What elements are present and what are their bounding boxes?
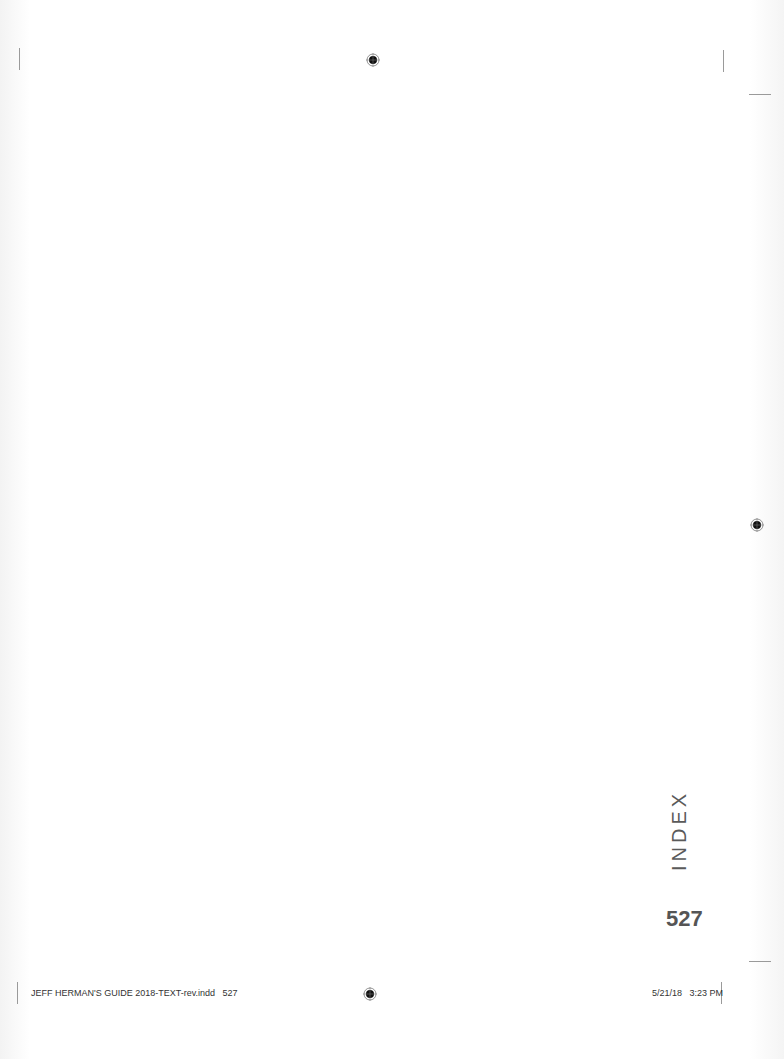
crop-mark-right-bottom — [749, 961, 771, 962]
crop-mark-bottom-left — [17, 982, 18, 1004]
registration-target-icon — [363, 987, 377, 1001]
crop-mark-right-top — [749, 94, 771, 95]
registration-target-icon — [750, 518, 764, 532]
section-tab: INDEX — [668, 792, 692, 868]
registration-target-icon — [366, 53, 380, 67]
crop-mark-top-left — [19, 48, 20, 70]
slug-timestamp: 5/21/18 3:23 PM — [652, 988, 723, 998]
page-number: 527 — [666, 906, 703, 932]
slug-file-info: JEFF HERMAN'S GUIDE 2018-TEXT-rev.indd 5… — [31, 988, 238, 998]
crop-mark-top-right — [723, 50, 724, 72]
section-tab-label: INDEX — [669, 789, 692, 870]
